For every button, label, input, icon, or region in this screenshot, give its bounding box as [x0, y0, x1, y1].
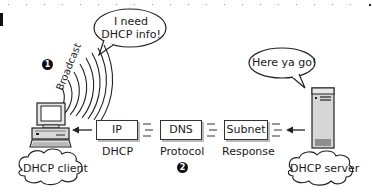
server-speech-text: Here ya go!: [252, 56, 314, 69]
caption-response: Response: [222, 145, 275, 158]
motion-lines-2: [207, 124, 217, 136]
motion-lines-3: [272, 124, 282, 136]
step-2-marker: 2: [177, 162, 188, 173]
packet-box-subnet: Subnet: [224, 120, 268, 140]
client-speech-line-1: I need: [98, 15, 164, 28]
client-computer-icon: [30, 103, 71, 147]
step-1-marker: 1: [42, 59, 53, 70]
dhcp-diagram: I need DHCP info! 1 Broadcast IP DNS Sub…: [0, 0, 372, 193]
caption-dhcp: DHCP: [102, 145, 133, 158]
packet-box-ip: IP: [96, 120, 138, 140]
packet-box-dns: DNS: [160, 120, 202, 140]
arrow-from-server-icon: [286, 127, 305, 134]
client-label: DHCP client: [23, 162, 88, 175]
client-speech-line-2: DHCP info!: [98, 28, 164, 41]
server-tower-icon: [312, 88, 334, 148]
caption-protocol: Protocol: [160, 145, 204, 158]
client-speech-text: I need DHCP info!: [98, 15, 164, 41]
server-label: DHCP server: [290, 162, 359, 175]
motion-lines-1: [143, 124, 153, 136]
arrow-to-client-icon: [72, 127, 92, 134]
